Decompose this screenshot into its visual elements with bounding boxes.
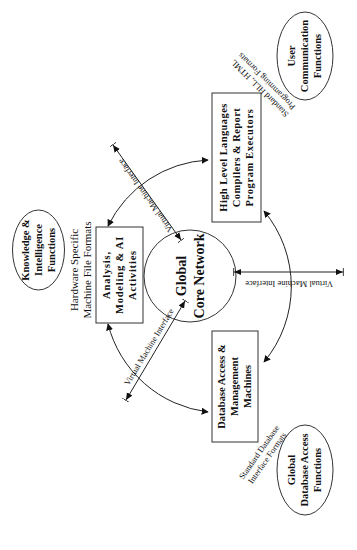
database-label-line-3: Machines — [242, 365, 253, 408]
diagram-canvas: Global Core Network Virtual Machine Inte… — [0, 0, 357, 550]
box-high-level-languages[interactable]: High Level Languages Compilers & Report … — [212, 93, 261, 222]
user-label-line-1: User — [286, 45, 297, 66]
box-database-access[interactable]: Database Access & Management Machines — [212, 331, 258, 442]
user-label-line-2: Communication — [299, 20, 310, 92]
vm-interface-right-label: Virtual Machine Interface — [245, 279, 333, 289]
knowledge-label-line-2: Intelligence — [33, 224, 44, 276]
ellipse-user-communication[interactable]: User Communication Functions — [277, 12, 333, 100]
hardware-formats-label: Hardware Specific Machine File Formats — [68, 221, 93, 318]
global-db-label-line-3: Functions — [312, 448, 323, 492]
hardware-label-line-2: Machine File Formats — [81, 221, 93, 318]
database-label-line-2: Management — [229, 357, 240, 416]
vm-interface-upper-label: Virtual Machine Interface — [115, 157, 174, 234]
analysis-label-line-2: Modeling & AI — [114, 236, 125, 314]
core-network-circle — [144, 230, 236, 322]
hardware-label-line-1: Hardware Specific — [68, 229, 80, 311]
global-db-label-line-2: Database Access — [299, 433, 310, 506]
global-core-network[interactable]: Global Core Network — [144, 230, 236, 322]
analysis-label-line-3: Activities — [127, 250, 138, 300]
analysis-label-line-1: Analysis, — [101, 251, 112, 299]
vm-interface-right: Virtual Machine Interface — [234, 272, 343, 289]
vm-interface-upper: Virtual Machine Interface — [113, 145, 181, 240]
box-analysis[interactable]: Analysis, Modeling & AI Activities — [96, 227, 143, 323]
hll-label-line-3: Program Executors — [244, 109, 255, 207]
knowledge-label-line-3: Functions — [46, 228, 57, 272]
hll-label-line-1: High Level Languages — [218, 103, 229, 211]
user-label-line-3: Functions — [312, 34, 323, 78]
core-label-line-1: Global — [174, 256, 189, 297]
global-db-label-line-1: Global — [286, 455, 297, 485]
hll-label-line-2: Compilers & Report — [231, 108, 242, 207]
knowledge-label-line-1: Knowledge & — [20, 219, 31, 281]
ellipse-knowledge-intelligence[interactable]: Knowledge & Intelligence Functions — [13, 210, 65, 290]
database-label-line-1: Database Access & — [216, 344, 227, 429]
core-label-line-2: Core Network — [192, 233, 207, 318]
